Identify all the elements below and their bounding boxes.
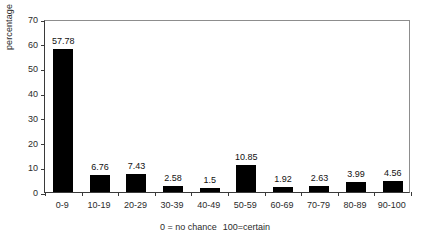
bar-value-label: 2.58: [164, 173, 182, 184]
bar-slot: 6.76: [82, 21, 119, 192]
bar: [236, 165, 256, 192]
y-axis-tick: 10: [1, 163, 45, 175]
x-axis-label: 0-9: [44, 199, 81, 211]
bar: [309, 186, 329, 192]
caption-left-text: 0 = no chance: [160, 222, 217, 232]
x-axis-label: 80-89: [337, 199, 374, 211]
x-axis-label: 20-29: [117, 199, 154, 211]
bar: [163, 186, 183, 192]
bar-value-label: 7.43: [128, 161, 146, 172]
y-axis-title: percentage: [2, 0, 16, 72]
x-axis-tickmark: [301, 192, 302, 196]
plot-area: 010203040506070 57.786.767.432.581.510.8…: [44, 20, 410, 193]
x-axis-labels: 0-910-1920-2930-3940-4950-5960-6970-7980…: [44, 199, 410, 213]
bar-slot: 3.99: [338, 21, 375, 192]
bar-slot: 57.78: [45, 21, 82, 192]
x-axis-tickmark: [45, 192, 46, 196]
bar-slot: 2.58: [155, 21, 192, 192]
x-axis-tickmark: [411, 192, 412, 196]
bar-series: 57.786.767.432.581.510.851.922.633.994.5…: [45, 21, 409, 192]
bar: [346, 182, 366, 192]
bar-slot: 1.92: [265, 21, 302, 192]
y-axis-tick: 30: [1, 114, 45, 126]
y-axis-tick: 20: [1, 139, 45, 151]
caption-right-text: 100=certain: [223, 222, 270, 232]
bar: [90, 175, 110, 192]
bar: [383, 181, 403, 192]
y-axis-tick: 70: [1, 15, 45, 27]
x-axis-label: 10-19: [81, 199, 118, 211]
bar-slot: 7.43: [118, 21, 155, 192]
bar-chart: percentage 010203040506070 57.786.767.43…: [0, 0, 430, 243]
bar-value-label: 6.76: [91, 162, 109, 173]
x-axis-tickmark: [374, 192, 375, 196]
bar: [200, 188, 220, 192]
x-axis-tickmark: [265, 192, 266, 196]
bar-value-label: 2.63: [311, 173, 329, 184]
bar-value-label: 3.99: [347, 169, 365, 180]
y-axis-tick: 0: [1, 188, 45, 200]
x-axis-label: 90-100: [373, 199, 410, 211]
bar-value-label: 4.56: [384, 168, 402, 179]
bar-slot: 1.5: [191, 21, 228, 192]
x-axis-tickmark: [228, 192, 229, 196]
x-axis-label: 40-49: [190, 199, 227, 211]
y-axis-tick: 40: [1, 89, 45, 101]
bar: [273, 187, 293, 192]
bar: [126, 174, 146, 192]
y-axis-tick: 60: [1, 40, 45, 52]
x-axis-label: 70-79: [300, 199, 337, 211]
bar-value-label: 57.78: [52, 36, 75, 47]
x-axis-tickmark: [191, 192, 192, 196]
chart-caption: 0 = no chance100=certain: [0, 222, 430, 232]
bar-slot: 4.56: [374, 21, 411, 192]
x-axis-label: 60-69: [264, 199, 301, 211]
y-axis-tick: 50: [1, 64, 45, 76]
bar-value-label: 10.85: [235, 152, 258, 163]
x-axis-label: 30-39: [154, 199, 191, 211]
x-axis-tickmark: [338, 192, 339, 196]
bar-value-label: 1.92: [274, 174, 292, 185]
bar: [53, 49, 73, 192]
x-axis-tickmark: [118, 192, 119, 196]
bar-value-label: 1.5: [203, 175, 216, 186]
x-axis-label: 50-59: [227, 199, 264, 211]
x-axis-tickmark: [155, 192, 156, 196]
x-axis-tickmark: [82, 192, 83, 196]
bar-slot: 10.85: [228, 21, 265, 192]
bar-slot: 2.63: [301, 21, 338, 192]
